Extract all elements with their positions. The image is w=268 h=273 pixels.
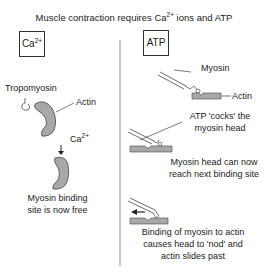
actin-shape-free: [53, 157, 69, 189]
calcium-box: Ca2+: [19, 31, 45, 57]
actin-label-right: Actin: [232, 91, 252, 101]
arrow-left-icon: [131, 209, 137, 215]
left-caption: Myosin bindingsite is now free: [5, 192, 110, 216]
myosin-head-nod: [153, 210, 159, 218]
step3-caption: Binding of myosin to actincauses head to…: [128, 226, 258, 262]
actin-filament-1: [192, 93, 221, 99]
actin-filament-3: [130, 218, 168, 224]
step2-caption: Myosin head can nowreach next binding si…: [160, 156, 268, 180]
calcium-ion-label: Ca2+: [70, 134, 89, 144]
arrow-down-icon: [58, 151, 64, 155]
actin-label-left: Actin: [76, 97, 96, 107]
actin-shape-blocked: [35, 102, 56, 136]
tropomyosin-icon: [22, 98, 30, 110]
myosin-head-icon: [185, 86, 197, 90]
tropomyosin-label: Tropomyosin: [5, 83, 57, 93]
myosin-label: Myosin: [201, 63, 230, 73]
actin-filament-2: [130, 146, 172, 152]
diagram-title: Muscle contraction requires Ca2+ ions an…: [0, 12, 268, 23]
step1-caption: ATP 'cocks' themyosin head: [175, 110, 265, 134]
actin-leader-line: [56, 103, 74, 112]
atp-box: ATP: [143, 30, 169, 56]
